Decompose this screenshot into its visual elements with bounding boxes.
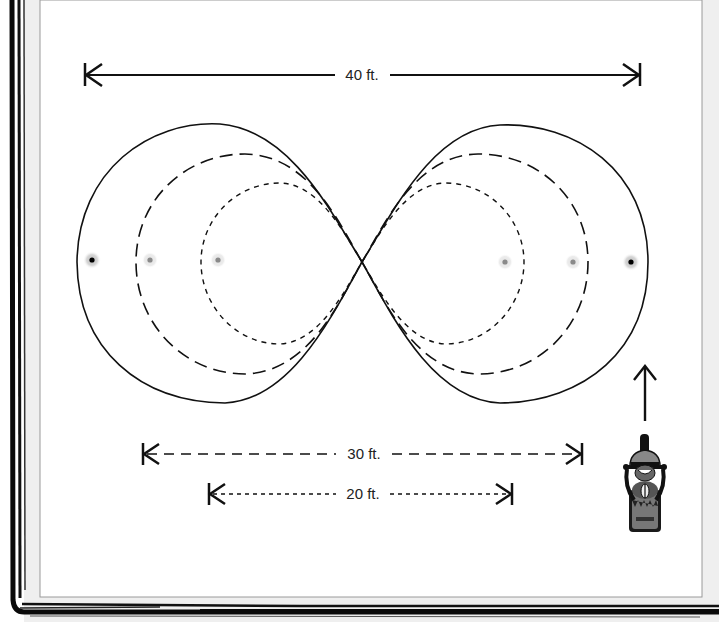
cone-icon bbox=[565, 254, 581, 270]
cone-icon bbox=[497, 254, 513, 270]
dimension-label-30ft: 30 ft. bbox=[347, 445, 380, 462]
dimension-label-20ft: 20 ft. bbox=[346, 485, 379, 502]
dimension-label-40ft: 40 ft. bbox=[345, 66, 378, 83]
cone-icon bbox=[142, 252, 158, 268]
cone-icon bbox=[622, 253, 640, 271]
frame bbox=[12, 0, 719, 622]
cone-icon bbox=[210, 252, 226, 268]
figure-eight-course-diagram: 40 ft. bbox=[0, 0, 719, 638]
cone-icon bbox=[83, 251, 101, 269]
